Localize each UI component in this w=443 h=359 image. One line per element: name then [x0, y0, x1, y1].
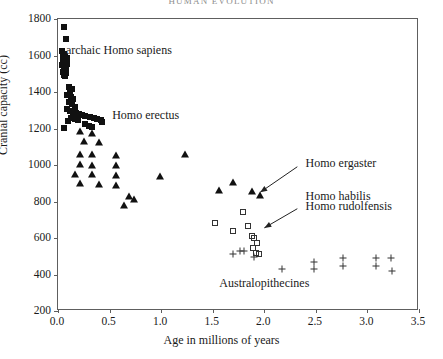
arrow-habilis-arrow [0, 0, 443, 359]
figure-hominin-cranial-capacity: HUMAN EVOLUTION Cranial capacity (cc) Ag… [0, 0, 443, 359]
